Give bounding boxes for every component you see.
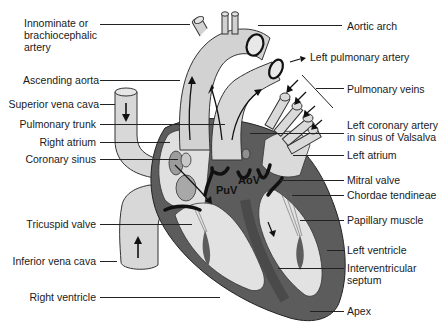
leader-ascending-aorta — [100, 80, 180, 81]
label-right-ventricle: Right ventricle — [29, 291, 96, 303]
leader-aortic-arch — [258, 25, 342, 26]
label-inferior-vena-cava: Inferior vena cava — [13, 255, 96, 267]
label-papillary-muscle: Papillary muscle — [347, 214, 423, 226]
aov-label: AoV — [238, 174, 261, 186]
label-superior-vena-cava: Superior vena cava — [9, 98, 99, 110]
puv-label: PuV — [216, 184, 238, 196]
pulmonary-veins-shape — [262, 75, 333, 177]
leader-interventricular-septum — [278, 268, 344, 269]
label-apex: Apex — [347, 305, 371, 317]
leader-left-ventricle — [327, 250, 344, 251]
label-mitral-valve: Mitral valve — [347, 174, 400, 186]
leader-right-atrium — [100, 142, 170, 143]
label-chordae-tendineae: Chordae tendineae — [347, 189, 436, 201]
leader-papillary-muscle — [300, 220, 344, 221]
label-left-coronary-artery: Left coronary artery in sinus of Valsalv… — [347, 119, 438, 143]
label-pulmonary-trunk: Pulmonary trunk — [20, 118, 96, 130]
label-interventricular-septum: Interventricular septum — [347, 262, 416, 286]
leader-pulmonary-trunk — [100, 124, 225, 125]
leader-mitral-valve — [280, 180, 344, 181]
label-right-atrium: Right atrium — [39, 136, 96, 148]
leader-chordae-tendineae — [292, 195, 344, 196]
label-pulmonary-veins: Pulmonary veins — [347, 83, 425, 95]
leader-innominate — [100, 24, 190, 25]
label-left-atrium: Left atrium — [347, 149, 397, 161]
leader-coronary-sinus — [100, 159, 178, 160]
leader-apex — [310, 311, 344, 312]
label-ascending-aorta: Ascending aorta — [23, 74, 99, 86]
leader-pulmonary-veins — [316, 88, 344, 89]
label-aortic-arch: Aortic arch — [347, 20, 397, 32]
leader-superior-vena-cava — [100, 104, 115, 105]
leader-left-coronary-artery — [250, 133, 344, 134]
leader-inferior-vena-cava — [100, 261, 117, 262]
label-coronary-sinus: Coronary sinus — [25, 153, 96, 165]
label-tricuspid-valve: Tricuspid valve — [26, 218, 96, 230]
leader-right-ventricle — [100, 297, 220, 298]
label-left-ventricle: Left ventricle — [347, 244, 407, 256]
label-left-pulmonary-artery: Left pulmonary artery — [310, 51, 409, 63]
leader-left-atrium — [293, 155, 344, 156]
label-innominate-artery: Innominate or brachiocephalic artery — [24, 17, 97, 53]
leader-tricuspid-valve — [100, 224, 192, 225]
